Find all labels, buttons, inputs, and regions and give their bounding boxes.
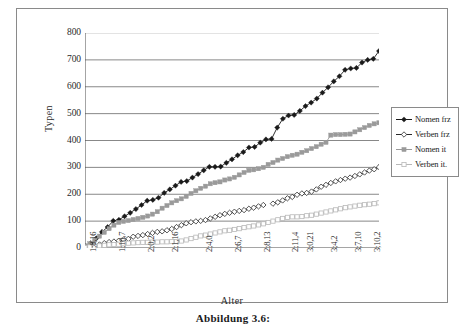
data-point	[338, 207, 342, 211]
data-point	[338, 132, 342, 136]
data-point	[223, 178, 227, 182]
legend-item[interactable]: Verben it.	[394, 157, 456, 172]
x-tick-label: 3;10,2	[373, 232, 382, 252]
data-point	[285, 215, 289, 219]
legend-label: Verben frz	[413, 130, 450, 139]
data-point	[402, 147, 406, 151]
data-point	[208, 182, 212, 186]
data-point	[167, 187, 172, 192]
data-point	[150, 197, 155, 202]
data-point	[300, 150, 304, 154]
data-point	[358, 203, 362, 207]
legend-item[interactable]: Nomen frz	[394, 112, 456, 127]
data-point	[227, 228, 231, 232]
data-point	[348, 132, 352, 136]
data-point	[280, 116, 285, 121]
data-point	[367, 123, 371, 127]
data-point	[199, 234, 203, 238]
data-point	[121, 219, 125, 223]
x-tick-label: 2;4,0	[205, 236, 214, 252]
y-tick-label: 600	[55, 82, 81, 92]
y-tick-label: 100	[55, 216, 81, 226]
data-point	[189, 236, 193, 240]
data-point	[159, 229, 164, 234]
data-point	[281, 216, 285, 220]
data-point	[85, 245, 87, 248]
data-point	[165, 203, 169, 207]
data-point	[155, 229, 160, 234]
x-tick-label: 3;4,2	[330, 236, 339, 252]
legend-marker-icon	[395, 144, 413, 155]
data-point	[343, 132, 347, 136]
data-point	[232, 227, 236, 231]
data-point	[343, 176, 348, 181]
data-point	[290, 215, 294, 219]
legend-label: Verben it.	[413, 160, 447, 169]
data-point	[126, 218, 130, 222]
data-point	[164, 228, 169, 233]
data-point	[201, 168, 206, 173]
data-point	[261, 165, 265, 169]
data-point	[218, 230, 222, 234]
x-axis-title: Alter	[85, 295, 379, 306]
x-tick-label: 2;8,13	[263, 232, 272, 252]
data-point	[372, 202, 376, 206]
data-point	[242, 225, 246, 229]
legend-item[interactable]: Verben frz	[394, 127, 456, 142]
data-point	[324, 210, 328, 214]
data-point	[252, 168, 256, 172]
data-point	[252, 224, 256, 228]
data-point	[401, 132, 406, 137]
data-point	[179, 197, 183, 201]
data-point	[319, 142, 323, 146]
data-point	[324, 140, 328, 144]
data-point	[261, 202, 266, 207]
legend-marker-icon	[395, 129, 413, 140]
data-point	[365, 57, 370, 62]
data-point	[146, 214, 150, 218]
data-point	[174, 199, 178, 203]
data-point	[102, 243, 106, 247]
chart-legend[interactable]: Nomen frzVerben frzNomen itVerben it.	[391, 107, 459, 177]
y-tick-label: 500	[55, 109, 81, 119]
x-tick-label: 3;7,10	[354, 232, 363, 252]
data-point	[237, 208, 242, 213]
data-point	[329, 133, 333, 137]
x-tick-label: 3;0,21	[306, 232, 315, 252]
legend-marker-icon	[395, 159, 413, 170]
x-tick-label: 2;11,4	[291, 232, 300, 252]
data-point	[295, 215, 299, 219]
x-axis-tick-labels: 1;8,161;10,72;0,22;1,162;4,02;6,72;8,132…	[85, 252, 379, 296]
data-point	[402, 162, 406, 166]
x-tick-label: 2;0,2	[147, 236, 156, 252]
data-point	[128, 210, 133, 215]
data-point	[218, 164, 223, 169]
data-point	[218, 180, 222, 184]
data-point	[362, 203, 366, 207]
data-point	[343, 206, 347, 210]
legend-item[interactable]: Nomen it	[394, 142, 456, 157]
data-point	[237, 173, 241, 177]
data-point	[213, 231, 217, 235]
data-point	[184, 238, 188, 242]
data-point	[179, 179, 184, 184]
data-point	[338, 177, 343, 182]
data-point	[251, 205, 256, 210]
data-point	[299, 191, 304, 196]
data-point	[173, 183, 178, 188]
data-point	[112, 223, 116, 227]
data-point	[329, 209, 333, 213]
data-point	[107, 243, 111, 247]
chart-frame: Typen 0100200300400500600700800 1;8,161;…	[16, 8, 448, 303]
x-tick-label: 1;10,7	[118, 232, 127, 252]
data-point	[266, 220, 270, 224]
data-point	[304, 190, 309, 195]
data-point	[295, 152, 299, 156]
data-point	[131, 241, 135, 245]
data-point	[232, 209, 237, 214]
data-point	[141, 240, 145, 244]
data-point	[135, 233, 140, 238]
y-tick-label: 400	[55, 136, 81, 146]
data-point	[102, 230, 106, 234]
data-point	[195, 171, 200, 176]
